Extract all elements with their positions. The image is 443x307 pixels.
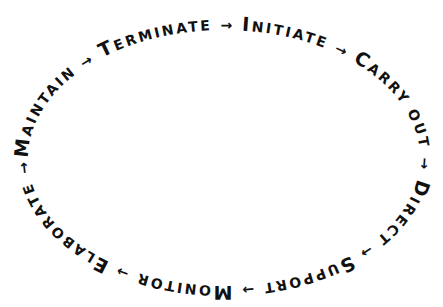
arrow-icon: → bbox=[351, 242, 376, 266]
stage-initiate-initial: I bbox=[242, 13, 251, 35]
stage-maintain-rest: AINTAIN bbox=[18, 64, 77, 138]
stage-terminate-rest: ERMINATE bbox=[111, 17, 210, 54]
stage-support-rest: UPPORT bbox=[263, 260, 341, 296]
cycle-text: MAINTAIN → TERMINATE → INITIATE → CARRY … bbox=[10, 13, 435, 304]
arrow-icon: → bbox=[77, 47, 102, 71]
stage-initiate-rest: NITIATE bbox=[251, 18, 329, 51]
arrow-icon: → bbox=[332, 40, 357, 63]
stage-monitor-initial: M bbox=[213, 282, 232, 304]
stage-direct-rest: IRECT bbox=[375, 194, 423, 248]
stage-elaborate-rest: LABORATE bbox=[19, 182, 97, 266]
stage-carry-out-rest: ARRY OUT bbox=[365, 60, 432, 149]
stage-maintain-initial: M bbox=[10, 137, 34, 159]
arrow-icon: → bbox=[234, 282, 254, 299]
stage-monitor-rest: ONITOR bbox=[136, 271, 212, 299]
arrow-icon: → bbox=[220, 17, 240, 33]
arrow-icon: → bbox=[415, 157, 433, 179]
arrow-icon: → bbox=[107, 260, 131, 282]
arrow-icon: → bbox=[15, 161, 32, 175]
cycle-diagram: MAINTAIN → TERMINATE → INITIATE → CARRY … bbox=[0, 0, 443, 307]
